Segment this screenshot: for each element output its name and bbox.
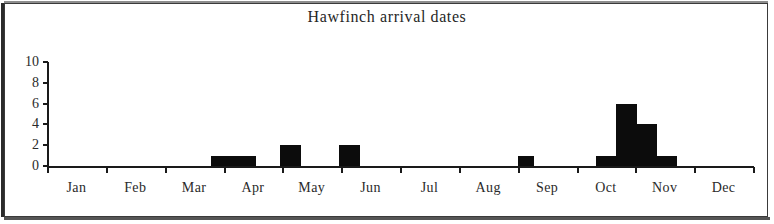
x-axis-tick [47,167,49,173]
x-axis-tick [518,167,520,173]
y-axis-tick-label: 2 [5,138,39,152]
y-axis-tick [43,82,48,84]
x-axis-tick-label: Jun [360,180,381,196]
bar [637,124,657,166]
x-axis-tick [694,167,696,173]
frame-edge-bottom [4,217,770,220]
bar [596,156,616,166]
y-axis-tick-label: 0 [5,159,39,173]
frame-edge-top [4,1,768,3]
chart-figure: Hawfinch arrival dates 0246810 JanFebMar… [0,0,774,224]
x-axis-tick-label: Nov [652,180,677,196]
x-axis-tick-label: Sep [536,180,558,196]
y-axis-tick-label: 10 [5,55,39,69]
x-axis-tick-label: Mar [182,180,207,196]
x-axis-tick [106,167,108,173]
x-axis-tick [165,167,167,173]
y-axis-tick [43,103,48,105]
y-axis-tick-label: 4 [5,117,39,131]
x-axis-tick-label: Jul [421,180,439,196]
bar [339,145,360,166]
y-axis-tick [43,61,48,63]
y-axis-line [47,62,49,167]
y-axis-labels: 0246810 [3,62,39,172]
x-axis-tick [224,167,226,173]
x-axis-tick-label: Feb [124,180,146,196]
plot-area: JanFebMarAprMayJunJulAugSepOctNovDec [47,62,753,166]
x-axis-tick-label: Aug [476,180,501,196]
bar [280,145,301,166]
bar [616,104,636,166]
bar [518,156,534,166]
y-axis-tick [43,123,48,125]
y-axis-tick-label: 8 [5,76,39,90]
x-axis-tick-label: Apr [241,180,264,196]
x-axis-tick-label: Jan [66,180,86,196]
x-axis-tick [459,167,461,173]
y-axis-tick [43,144,48,146]
x-axis-tick-label: May [298,180,325,196]
y-axis-tick-label: 6 [5,97,39,111]
bar [657,156,677,166]
x-axis-tick-label: Oct [595,180,616,196]
x-axis-tick [400,167,402,173]
x-axis-tick [577,167,579,173]
chart-title: Hawfinch arrival dates [0,8,774,26]
x-axis-tick [282,167,284,173]
x-axis-tick-label: Dec [712,180,736,196]
bar [211,156,256,166]
x-axis-tick [635,167,637,173]
x-axis-tick [753,167,755,173]
x-axis-tick [341,167,343,173]
